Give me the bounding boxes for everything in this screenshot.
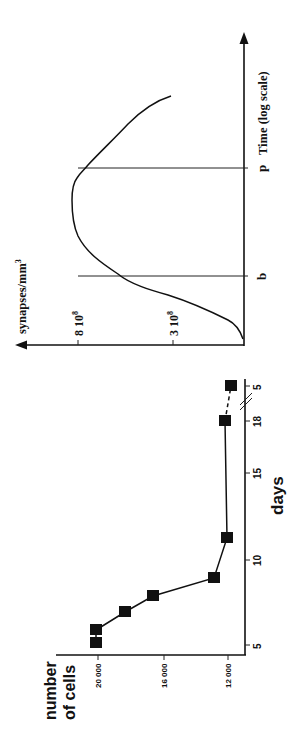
marker-label-p: p (254, 165, 269, 172)
cells-series-line (96, 421, 227, 630)
synapse-density-curve (72, 96, 243, 339)
tick-label-day-5b: 5 (252, 384, 263, 390)
cells-axis-label-line2: of cells (61, 665, 78, 720)
cells-axis-label-line1: number (42, 661, 59, 720)
figure: 8 108 3 108 synapses/mm3 b p Time (log s… (0, 0, 292, 736)
data-point (90, 637, 102, 648)
time-axis-label: Time (log scale) (256, 71, 270, 155)
data-point (219, 415, 231, 426)
synapse-axis-arrow-icon (15, 341, 27, 350)
tick-label-day-15: 15 (252, 467, 263, 479)
synapse-chart: 8 108 3 108 synapses/mm3 b p Time (log s… (14, 32, 270, 350)
cells-chart: 20 000 16 000 12 000 number of cells 5 1… (42, 379, 287, 720)
time-axis-arrow-icon (240, 32, 249, 44)
marker-label-b: b (254, 273, 269, 280)
data-point (225, 380, 237, 391)
tick-label-8e8: 8 108 (71, 311, 86, 336)
tick-label-day-5: 5 (252, 643, 263, 649)
data-point (147, 590, 159, 601)
data-point (208, 572, 220, 583)
data-point (90, 624, 102, 635)
synapse-axis-label: synapses/mm3 (14, 259, 29, 334)
tick-label-day-10: 10 (252, 554, 263, 566)
axis-break-mark-2 (240, 393, 252, 405)
tick-label-20000: 20 000 (94, 663, 103, 688)
data-point (221, 532, 233, 543)
tick-label-16000: 16 000 (160, 663, 169, 688)
axis-break-mark-1 (240, 398, 252, 410)
days-axis-label: days (268, 476, 287, 515)
data-point (119, 606, 131, 617)
tick-label-day-18: 18 (252, 415, 263, 427)
tick-label-3e8: 3 108 (166, 311, 181, 336)
tick-label-12000: 12 000 (224, 663, 233, 688)
